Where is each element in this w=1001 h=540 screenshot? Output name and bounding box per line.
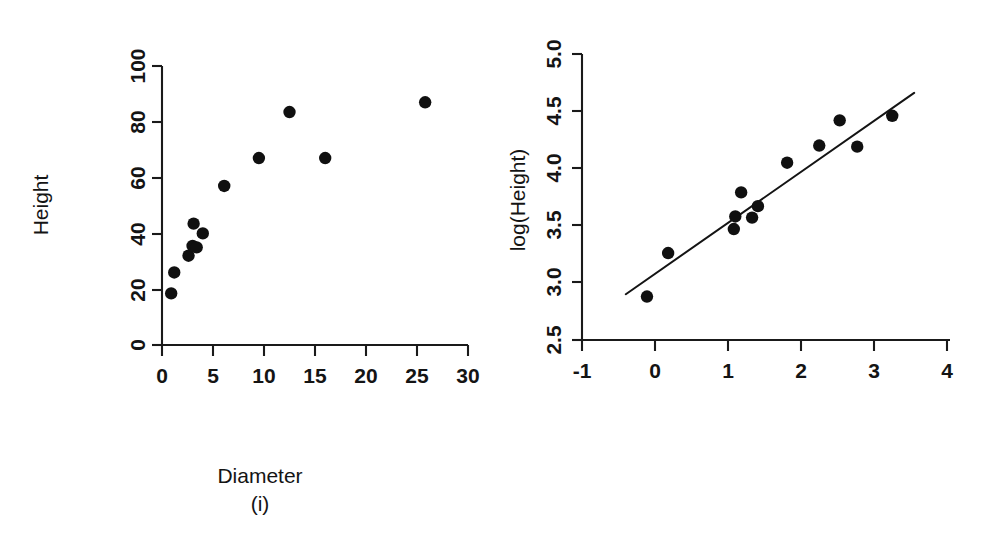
panel-i-yticklabel: 20 [126, 278, 149, 301]
data-point [187, 217, 199, 229]
panel-ii-yticklabel: 2.5 [542, 325, 565, 355]
panel-i-yticklabel: 80 [126, 110, 149, 133]
panel-logdiameter-logheight: 5.0 4.5 4.0 3.5 3.0 2.5 -1 0 1 [500, 0, 1001, 540]
panel-i-x-ticks [162, 345, 468, 356]
panel-i-caption-label: Diameter [217, 464, 302, 487]
panel-i-caption-number: (i) [150, 490, 370, 518]
panel-i-xticklabel: 5 [207, 364, 219, 387]
panel-ii-yticklabel: 5.0 [542, 39, 565, 68]
data-point [752, 200, 764, 212]
data-point [419, 96, 431, 108]
panel-i-x-ticklabels: 0 5 10 15 20 25 30 [156, 364, 480, 387]
panel-ii-yticklabel: 3.5 [542, 210, 565, 240]
data-point [641, 290, 653, 302]
panel-i-yticklabel: 40 [126, 222, 149, 245]
data-point [729, 210, 741, 222]
data-point [319, 152, 331, 164]
panel-ii-xticklabel: 4 [941, 359, 953, 382]
panel-i-xticklabel: 25 [405, 364, 429, 387]
data-point [190, 241, 202, 253]
panel-i-y-ticklabels: 100 80 60 40 20 0 [126, 48, 149, 350]
panel-i-xticklabel: 15 [303, 364, 327, 387]
panel-i-yticklabel: 60 [126, 166, 149, 189]
data-point [746, 211, 758, 223]
panel-ii-yticklabel: 4.5 [542, 96, 565, 126]
data-point [728, 223, 740, 235]
data-point [851, 140, 863, 152]
panel-ii-regression-line [626, 93, 914, 294]
panel-ii-xticklabel: 3 [868, 359, 880, 382]
data-point [662, 247, 674, 259]
data-point [218, 180, 230, 192]
data-point [833, 114, 845, 126]
panel-ii-datapoints [641, 110, 899, 303]
data-point [168, 266, 180, 278]
panel-i-xticklabel: 10 [252, 364, 275, 387]
data-point [813, 139, 825, 151]
data-point [781, 156, 793, 168]
panel-i-y-ticks [152, 66, 162, 345]
figure-two-panel-scatterplots: 100 80 60 40 20 0 0 5 10 [0, 0, 1001, 540]
data-point [197, 227, 209, 239]
panel-i-xticklabel: 30 [456, 364, 479, 387]
panel-ii-x-ticks [582, 340, 947, 351]
panel-i-xticklabel: 20 [354, 364, 377, 387]
panel-ii-x-ticklabels: -1 0 1 2 3 4 [573, 359, 954, 382]
data-point [735, 186, 747, 198]
panel-i-yticklabel: 100 [126, 48, 149, 83]
panel-i-yticklabel: 0 [126, 339, 149, 351]
panel-i-plot: 100 80 60 40 20 0 0 5 10 [0, 0, 500, 540]
panel-ii-xticklabel: 0 [649, 359, 661, 382]
panel-ii-y-axis-title: log(Height) [506, 149, 529, 252]
panel-ii-xticklabel: -1 [573, 359, 592, 382]
data-point [886, 110, 898, 122]
panel-ii-y-ticks [572, 54, 582, 340]
panel-ii-y-ticklabels: 5.0 4.5 4.0 3.5 3.0 2.5 [542, 39, 565, 354]
data-point [253, 152, 265, 164]
panel-i-datapoints [165, 96, 431, 300]
data-point [283, 106, 295, 118]
panel-ii-xticklabel: 2 [795, 359, 807, 382]
panel-ii-yticklabel: 3.0 [542, 267, 565, 296]
panel-i-caption: Diameter (i) [150, 462, 370, 517]
data-point [165, 287, 177, 299]
panel-ii-yticklabel: 4.0 [542, 153, 565, 182]
panel-i-y-axis-title: Height [29, 174, 52, 235]
panel-i-xticklabel: 0 [156, 364, 168, 387]
panel-ii-plot: 5.0 4.5 4.0 3.5 3.0 2.5 -1 0 1 [500, 0, 1001, 540]
panel-diameter-height: 100 80 60 40 20 0 0 5 10 [0, 0, 500, 540]
panel-ii-xticklabel: 1 [722, 359, 734, 382]
